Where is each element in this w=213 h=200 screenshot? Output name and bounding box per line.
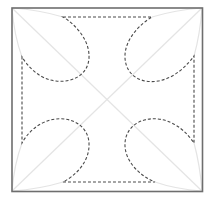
pattern-diagram	[0, 0, 213, 200]
